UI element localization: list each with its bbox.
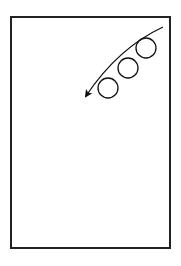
circle-3 <box>98 78 118 98</box>
curved-arrow <box>86 27 163 96</box>
diagram-canvas <box>0 0 181 266</box>
frame-rectangle <box>11 17 170 248</box>
diagram-svg <box>0 0 181 266</box>
circle-2 <box>118 58 138 78</box>
